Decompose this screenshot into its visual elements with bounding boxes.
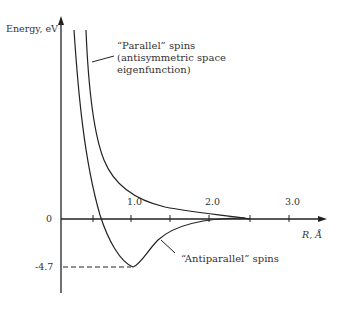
parallel-label-line2: (antisymmetric space [117,52,226,64]
y-axis-arrow-icon [58,16,64,25]
x-tick-label-2: 2.0 [205,197,220,207]
parallel-label-line3: eigenfunction) [117,64,191,76]
parallel-leader-line [92,56,114,62]
parallel-label-line1: “Parallel” spins [117,40,195,52]
y-axis-label: Energy, eV [6,24,58,34]
x-axis-unit: , Å [309,229,322,240]
y-zero-label: 0 [46,214,52,224]
y-min-label: -4.7 [35,262,53,272]
antiparallel-label: “Antiparallel” spins [181,253,279,265]
x-axis-arrow-icon [318,216,327,222]
antiparallel-leader-line [161,240,175,253]
x-tick-label-1: 1.0 [127,197,142,207]
x-axis-label: R, Å [302,230,322,240]
x-tick-label-3: 3.0 [285,197,300,207]
